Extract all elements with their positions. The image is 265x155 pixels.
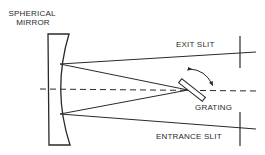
mirror-label-line2: MIRROR [16, 18, 50, 27]
ray-grating-to-mirror [60, 64, 188, 90]
grating-label: GRATING [195, 103, 232, 112]
arrow-icon [60, 60, 130, 64]
ray-mirror-to-grating [60, 90, 188, 114]
arrow-icon [130, 120, 256, 130]
spectrometer-diagram: SPHERICAL MIRROR EXIT SLIT GRATING ENTRA… [0, 0, 265, 155]
arrow-icon [126, 78, 188, 91]
ray-entrance-to-mirror [60, 114, 256, 129]
entrance-slit-label: ENTRANCE SLIT [156, 132, 222, 141]
arrow-icon [60, 101, 130, 114]
rotation-arrow-icon [190, 69, 212, 84]
optical-axis [40, 89, 258, 91]
mirror-label-line1: SPHERICAL [8, 9, 55, 18]
ray-mirror-to-exit [60, 52, 256, 64]
exit-slit-label: EXIT SLIT [176, 40, 215, 49]
